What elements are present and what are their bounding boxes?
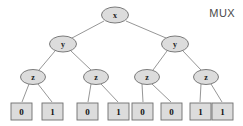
tree-edge-n0-n1 [72, 21, 104, 38]
tree-edge-n6-l6 [200, 84, 201, 102]
decision-variable-text: z [31, 73, 35, 82]
leaf-node-l5: 0 [161, 103, 182, 120]
tree-edge-n6-l7 [211, 84, 222, 102]
decision-node-n6: z [194, 70, 219, 85]
decision-variable-text: y [61, 40, 65, 49]
tree-edge-n2-n6 [183, 51, 201, 70]
decision-node-n0: x [102, 7, 129, 23]
decision-variable-text: z [204, 73, 208, 82]
leaf-node-l7: 1 [212, 103, 233, 120]
decision-node-n4: z [84, 70, 109, 85]
leaf-node-l6: 1 [190, 103, 211, 120]
tree-edge-n2-n5 [153, 51, 167, 70]
tree-edge-n1-n4 [71, 51, 91, 70]
tree-edge-n1-n3 [39, 51, 55, 70]
decision-node-n1: y [50, 36, 77, 52]
tree-edge-n0-n2 [126, 21, 166, 38]
mux-caption-label: MUX [209, 7, 235, 19]
leaf-value-text: 1 [198, 107, 203, 117]
tree-edge-n3-l0 [22, 84, 29, 102]
decision-node-n5: z [135, 70, 160, 85]
decision-node-n3: z [21, 70, 46, 85]
leaf-value-text: 1 [50, 107, 55, 117]
edges-layer [22, 21, 222, 102]
decision-variable-text: z [94, 73, 98, 82]
leaf-value-text: 0 [19, 107, 24, 117]
decision-variable-text: y [173, 40, 177, 49]
leaf-value-text: 1 [220, 107, 225, 117]
leaf-value-text: 0 [169, 107, 174, 117]
decision-variable-text: z [145, 73, 149, 82]
tree-edge-n5-l5 [152, 84, 171, 102]
tree-edge-n4-l2 [88, 84, 91, 102]
leaf-node-l4: 0 [132, 103, 153, 120]
leaf-value-text: 0 [85, 107, 90, 117]
leaf-value-text: 1 [116, 107, 121, 117]
leaf-node-l3: 1 [108, 103, 129, 120]
tree-edge-n4-l3 [101, 84, 118, 102]
leaf-value-text: 0 [140, 107, 145, 117]
tree-edge-n5-l4 [142, 84, 143, 102]
leaf-node-l2: 0 [77, 103, 98, 120]
leaf-node-l1: 1 [42, 103, 63, 120]
tree-diagram-canvas: xyyzzzz01010011 [0, 0, 243, 126]
tree-edge-n3-l1 [38, 84, 52, 102]
leaf-node-l0: 0 [11, 103, 32, 120]
mux-decision-tree-figure: xyyzzzz01010011 MUX [0, 0, 243, 126]
decision-variable-text: x [113, 11, 117, 20]
decision-node-n2: y [162, 36, 189, 52]
